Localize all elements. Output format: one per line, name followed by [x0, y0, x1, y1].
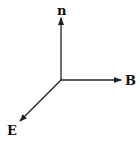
axis-e: E: [7, 80, 61, 138]
axis-b: B: [61, 73, 136, 88]
axes-diagram: n B E: [0, 0, 140, 147]
axis-label-b: B: [125, 73, 136, 88]
axis-n: n: [57, 3, 67, 80]
axis-label-n: n: [57, 3, 67, 18]
axis-label-e: E: [7, 123, 17, 138]
